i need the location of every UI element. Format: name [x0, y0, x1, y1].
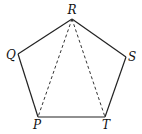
vertex-label-T: T [102, 118, 111, 132]
edge-PQ [18, 54, 38, 117]
vertex-label-P: P [32, 118, 42, 132]
edge-ST [105, 57, 126, 117]
dashed-diagonals [38, 19, 105, 117]
vertex-label-S: S [128, 50, 136, 64]
edge-RS [72, 19, 126, 57]
diagonal-RT [72, 19, 105, 117]
edge-QR [18, 19, 72, 54]
pentagon-diagram: R Q S P T [0, 0, 142, 134]
vertex-labels: R Q S P T [6, 3, 136, 132]
diagonal-RP [38, 19, 72, 117]
vertex-label-R: R [66, 3, 76, 17]
vertex-label-Q: Q [6, 48, 16, 62]
solid-edges [18, 19, 126, 117]
